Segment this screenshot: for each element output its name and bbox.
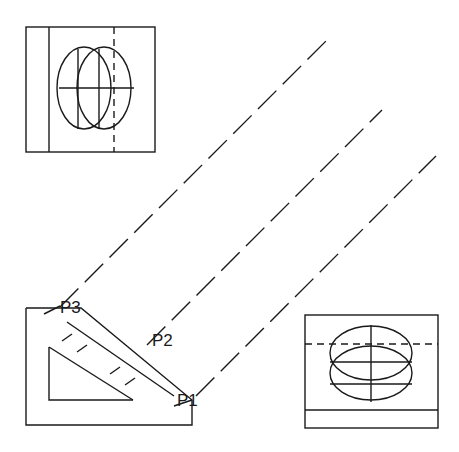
projection-line-p3	[60, 36, 331, 307]
view-bottom-right	[305, 315, 438, 428]
bracket-hatch-1	[62, 334, 72, 341]
bracket-hatch-4	[125, 378, 135, 385]
bracket-hatch-3	[110, 367, 120, 374]
drawing-svg: P3 P2 P1	[0, 0, 459, 452]
technical-drawing-canvas: P3 P2 P1	[0, 0, 459, 452]
top-view-outline	[26, 27, 155, 152]
projection-line-p1	[196, 156, 436, 396]
label-p3: P3	[60, 298, 81, 317]
label-p2: P2	[152, 331, 173, 350]
label-p1: P1	[177, 391, 198, 410]
bracket-hatch-2	[77, 345, 87, 352]
projection-line-p2	[147, 110, 382, 345]
leader-line-p3	[44, 306, 60, 314]
view-bottom-left	[26, 306, 192, 425]
view-top-left	[26, 27, 155, 152]
bracket-inner-chamfer	[49, 347, 133, 400]
projection-lines-group	[60, 36, 436, 396]
bracket-outline	[26, 308, 192, 425]
